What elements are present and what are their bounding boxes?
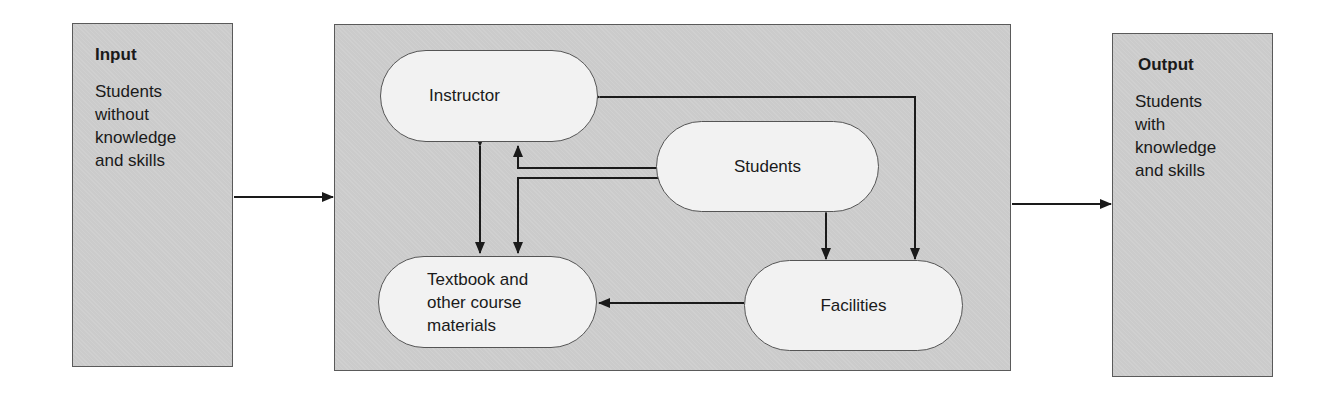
students-to-instructor-arrow	[518, 146, 660, 168]
node-students-label: Students	[734, 157, 801, 177]
node-facilities-label: Facilities	[820, 296, 886, 316]
node-textbook-label: Textbook and other course materials	[427, 268, 528, 337]
node-textbook: Textbook and other course materials	[378, 256, 597, 348]
students-to-textbook-arrow	[518, 178, 660, 253]
node-students: Students	[656, 121, 879, 212]
node-facilities: Facilities	[744, 260, 963, 351]
node-instructor-label: Instructor	[429, 86, 500, 106]
node-instructor: Instructor	[380, 50, 598, 142]
